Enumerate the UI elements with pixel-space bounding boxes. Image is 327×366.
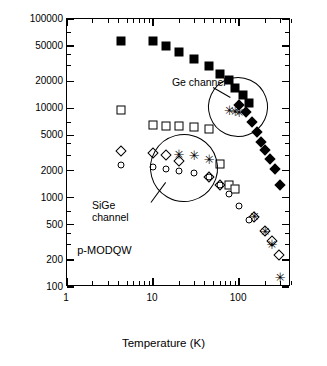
- data-point-open-circle: [117, 162, 124, 169]
- y-tick-mark: [67, 197, 74, 198]
- data-point-filled-square: [190, 54, 199, 63]
- x-minor-tick: [179, 281, 180, 285]
- x-tick-mark: [238, 278, 239, 285]
- y-minor-tick: [285, 65, 289, 66]
- data-point-open-diamond: [115, 146, 126, 157]
- x-minor-tick: [127, 19, 128, 23]
- x-minor-tick: [139, 19, 140, 23]
- x-tick-label: 100: [230, 292, 247, 303]
- x-minor-tick: [92, 281, 93, 285]
- x-tick-mark: [238, 19, 239, 26]
- data-point-open-circle: [236, 203, 243, 210]
- y-minor-tick: [67, 211, 71, 212]
- x-minor-tick: [220, 281, 221, 285]
- y-minor-tick: [67, 143, 71, 144]
- y-tick-mark: [67, 259, 74, 260]
- x-tick-mark: [66, 278, 67, 285]
- y-tick-mark: [67, 18, 74, 19]
- x-minor-tick: [235, 281, 236, 285]
- x-minor-tick: [133, 19, 134, 23]
- y-tick-mark: [282, 135, 289, 136]
- data-point-filled-square: [161, 41, 170, 50]
- data-point-filled-square: [175, 47, 184, 56]
- x-minor-tick: [230, 19, 231, 23]
- chart-figure: Hall mobility cm2/Vs Temperature (K) ✳✳✳…: [0, 0, 327, 366]
- x-tick-mark: [152, 19, 153, 26]
- data-point-filled-square: [205, 61, 214, 70]
- x-minor-tick: [133, 281, 134, 285]
- y-tick-mark: [67, 286, 74, 287]
- x-tick-mark: [66, 19, 67, 26]
- y-tick-label: 2000: [41, 164, 63, 175]
- data-point-star: ✳: [260, 226, 271, 237]
- y-tick-label: 500: [46, 218, 63, 229]
- data-point-open-square: [116, 106, 125, 115]
- x-minor-tick: [139, 281, 140, 285]
- y-tick-label: 100000: [30, 13, 63, 24]
- y-minor-tick: [285, 211, 289, 212]
- y-tick-mark: [282, 81, 289, 82]
- x-minor-tick: [194, 281, 195, 285]
- y-minor-tick: [67, 54, 71, 55]
- y-minor-tick: [67, 122, 71, 123]
- x-minor-tick: [204, 281, 205, 285]
- y-minor-tick: [285, 155, 289, 156]
- x-minor-tick: [235, 19, 236, 23]
- data-point-filled-diamond: [275, 179, 286, 190]
- y-tick-mark: [282, 286, 289, 287]
- y-tick-label: 50000: [35, 39, 63, 50]
- y-minor-tick: [285, 233, 289, 234]
- x-minor-tick: [265, 281, 266, 285]
- x-minor-tick: [265, 19, 266, 23]
- x-minor-tick: [108, 281, 109, 285]
- annotation-ge-channel: Ge channel: [172, 76, 226, 88]
- data-point-open-circle: [226, 190, 233, 197]
- annotation-sige-channel: SiGe channel: [92, 199, 129, 223]
- data-point-open-square: [205, 125, 214, 134]
- x-minor-tick: [291, 19, 292, 23]
- y-minor-tick: [285, 244, 289, 245]
- y-tick-mark: [282, 45, 289, 46]
- y-minor-tick: [67, 244, 71, 245]
- y-minor-tick: [67, 155, 71, 156]
- annotation-p-modqw: p-MODQW: [77, 244, 131, 256]
- y-tick-mark: [67, 81, 74, 82]
- y-tick-label: 1000: [41, 191, 63, 202]
- x-minor-tick: [179, 19, 180, 23]
- y-tick-label: 20000: [35, 75, 63, 86]
- data-point-open-square: [190, 122, 199, 131]
- y-minor-tick: [67, 32, 71, 33]
- x-minor-tick: [230, 281, 231, 285]
- x-minor-tick: [149, 19, 150, 23]
- y-minor-tick: [285, 143, 289, 144]
- y-minor-tick: [67, 233, 71, 234]
- y-tick-mark: [67, 224, 74, 225]
- x-minor-tick: [280, 19, 281, 23]
- x-minor-tick: [204, 19, 205, 23]
- y-tick-label: 10000: [35, 102, 63, 113]
- y-tick-mark: [282, 108, 289, 109]
- x-minor-tick: [144, 281, 145, 285]
- x-minor-tick: [213, 281, 214, 285]
- data-point-star: ✳: [275, 271, 286, 282]
- y-minor-tick: [285, 32, 289, 33]
- x-minor-tick: [108, 19, 109, 23]
- x-minor-tick: [127, 281, 128, 285]
- data-point-star: ✳: [249, 211, 260, 222]
- x-axis-label: Temperature (K): [0, 337, 327, 349]
- y-minor-tick: [285, 54, 289, 55]
- y-tick-mark: [67, 45, 74, 46]
- y-tick-mark: [282, 259, 289, 260]
- y-tick-mark: [67, 170, 74, 171]
- data-point-open-square: [149, 121, 158, 130]
- x-minor-tick: [291, 281, 292, 285]
- y-tick-label: 200: [46, 254, 63, 265]
- data-point-open-square: [161, 121, 170, 130]
- y-minor-tick: [67, 65, 71, 66]
- y-minor-tick: [285, 122, 289, 123]
- x-tick-label: 1: [63, 292, 69, 303]
- x-tick-mark: [152, 278, 153, 285]
- data-point-star: ✳: [266, 239, 277, 250]
- y-tick-mark: [282, 197, 289, 198]
- y-tick-mark: [67, 108, 74, 109]
